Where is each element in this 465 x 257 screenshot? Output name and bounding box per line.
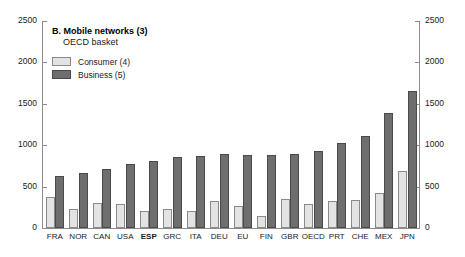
- x-axis-label-eu: EU: [231, 232, 255, 242]
- x-axis-label-gbr: GBR: [278, 232, 302, 242]
- bar-grc-consumer: [163, 209, 172, 228]
- bar-can-business: [102, 169, 111, 228]
- y-axis-label-right: 500: [425, 182, 439, 191]
- y-axis-label-left: 1000: [0, 140, 37, 149]
- x-axis-label-prt: PRT: [325, 232, 349, 242]
- bar-mex-business: [384, 113, 393, 228]
- legend-item-consumer: Consumer (4): [52, 56, 130, 67]
- x-axis-label-usa: USA: [114, 232, 138, 242]
- y-axis-label-right: 2500: [425, 16, 444, 25]
- y-axis-label-left: 0: [0, 223, 37, 232]
- chart-container: 05001000150020002500 0500100015002000250…: [0, 0, 465, 257]
- chart-subtitle: OECD basket: [63, 37, 118, 47]
- bar-usa-business: [126, 164, 135, 228]
- x-axis-label-can: CAN: [90, 232, 114, 242]
- bar-fra-consumer: [46, 197, 55, 228]
- bar-mex-consumer: [375, 193, 384, 228]
- bar-nor-business: [79, 173, 88, 228]
- y-axis-label-left: 1500: [0, 99, 37, 108]
- bar-esp-consumer: [140, 211, 149, 228]
- bar-grc-business: [173, 157, 182, 228]
- x-axis-label-mex: MEX: [372, 232, 396, 242]
- bar-ita-consumer: [187, 211, 196, 228]
- bar-ita-business: [196, 156, 205, 228]
- bar-prt-business: [337, 143, 346, 228]
- chart-title: B. Mobile networks (3): [52, 26, 148, 36]
- x-axis-label-che: CHE: [349, 232, 373, 242]
- legend-swatch-consumer-icon: [52, 57, 71, 66]
- x-axis-label-fra: FRA: [43, 232, 67, 242]
- bar-eu-business: [243, 155, 252, 228]
- y-axis-label-left: 2000: [0, 57, 37, 66]
- x-axis-label-esp: ESP: [137, 232, 161, 242]
- x-axis-label-grc: GRC: [161, 232, 185, 242]
- bar-eu-consumer: [234, 206, 243, 228]
- bar-fin-consumer: [257, 216, 266, 228]
- bar-jpn-business: [408, 91, 417, 228]
- bar-che-consumer: [351, 200, 360, 228]
- bar-che-business: [361, 136, 370, 228]
- legend-swatch-business-icon: [52, 70, 71, 79]
- x-axis-label-jpn: JPN: [396, 232, 420, 242]
- bar-jpn-consumer: [398, 171, 407, 228]
- bar-oecd-business: [314, 151, 323, 228]
- bar-can-consumer: [93, 203, 102, 228]
- bar-esp-business: [149, 161, 158, 228]
- y-axis-label-right: 2000: [425, 57, 444, 66]
- chart-legend: Consumer (4) Business (5): [52, 56, 130, 82]
- bar-gbr-business: [290, 154, 299, 228]
- y-axis-label-left: 500: [0, 182, 37, 191]
- bar-usa-consumer: [116, 204, 125, 228]
- x-axis-label-nor: NOR: [67, 232, 91, 242]
- y-axis-label-left: 2500: [0, 16, 37, 25]
- y-axis-label-right: 1000: [425, 140, 444, 149]
- bar-deu-consumer: [210, 201, 219, 228]
- bar-oecd-consumer: [304, 204, 313, 228]
- x-axis-label-oecd: OECD: [302, 232, 326, 242]
- x-axis-label-ita: ITA: [184, 232, 208, 242]
- legend-label-consumer: Consumer (4): [78, 57, 130, 67]
- legend-item-business: Business (5): [52, 69, 130, 80]
- legend-label-business: Business (5): [78, 70, 125, 80]
- bar-deu-business: [220, 154, 229, 228]
- bar-prt-consumer: [328, 201, 337, 228]
- bar-fin-business: [267, 155, 276, 228]
- y-axis-label-right: 0: [425, 223, 430, 232]
- bar-fra-business: [55, 176, 64, 228]
- x-axis-label-fin: FIN: [255, 232, 279, 242]
- bar-nor-consumer: [69, 209, 78, 228]
- bars-layer: [43, 21, 419, 228]
- y-axis-label-right: 1500: [425, 99, 444, 108]
- x-axis-label-deu: DEU: [208, 232, 232, 242]
- bar-gbr-consumer: [281, 199, 290, 228]
